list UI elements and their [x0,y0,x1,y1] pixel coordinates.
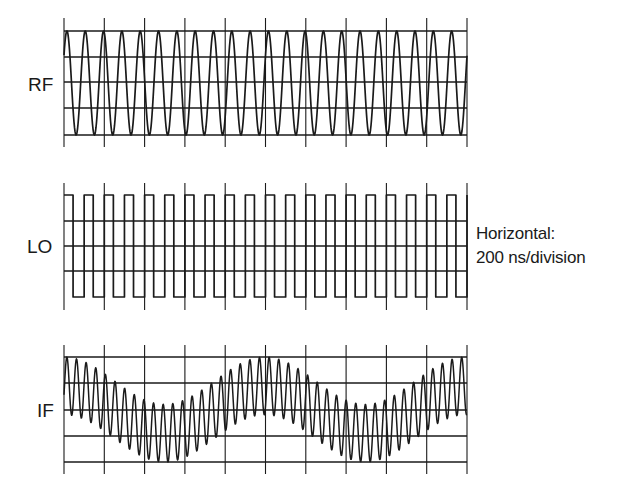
mixer-waveforms-figure: RF LO IF Horizontal: 200 ns/division [0,0,631,498]
lo-waveform [64,195,467,297]
timebase-value: 200 ns/division [476,246,585,270]
timebase-note: Horizontal: 200 ns/division [476,222,585,270]
rf-label: RF [28,75,53,94]
lo-label: LO [27,237,52,256]
if-label: IF [37,401,54,420]
timebase-title: Horizontal: [476,222,585,246]
